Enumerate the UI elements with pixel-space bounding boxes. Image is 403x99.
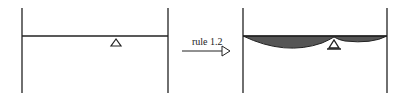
support-triangle-icon <box>111 39 121 46</box>
diagram-canvas <box>0 0 403 99</box>
moment-diagram <box>243 36 387 48</box>
right-panel <box>243 8 387 93</box>
arrow-label: rule 1.2 <box>192 36 223 47</box>
left-panel <box>22 8 168 93</box>
support-triangle-icon <box>329 40 339 48</box>
arrow-head-icon <box>222 46 230 56</box>
transform-arrow <box>182 46 230 56</box>
